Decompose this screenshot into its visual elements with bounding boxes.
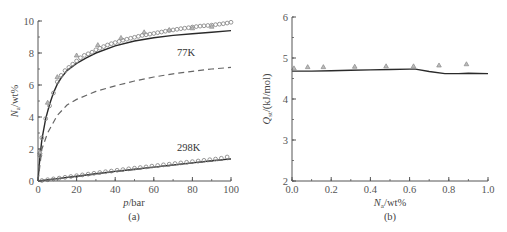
data-point-circle [194, 25, 198, 29]
figure: 0204060801000246810 77K 298K p/bar (a) N… [0, 0, 507, 232]
x-tick-label: 60 [149, 184, 160, 195]
y-tick-label: 6 [283, 12, 288, 23]
y-tick-label: 5 [283, 53, 288, 64]
y-tick-label: 3 [283, 135, 288, 146]
data-point-circle [106, 43, 110, 47]
annotation-77k: 77K [177, 47, 196, 58]
x-tick-label: 0.8 [442, 184, 455, 195]
caption-b: (b) [384, 211, 397, 223]
data-point-circle [109, 42, 113, 46]
data-point-circle [152, 32, 156, 36]
data-point-triangle [352, 64, 357, 68]
data-point-circle [225, 21, 229, 25]
data-point-triangle [464, 62, 469, 66]
data-point-circle [125, 37, 129, 41]
data-point-circle [79, 56, 83, 60]
data-point-circle [94, 48, 98, 52]
data-point-circle [82, 54, 86, 58]
y-tick-label: 2 [283, 176, 288, 187]
data-point-triangle [142, 30, 147, 34]
x-tick-label: 40 [110, 184, 121, 195]
data-point-circle [148, 32, 152, 36]
data-point-circle [221, 22, 225, 26]
x-tick-label: 0.6 [403, 184, 416, 195]
data-point-circle [225, 155, 229, 159]
caption-a: (a) [128, 211, 140, 223]
data-point-triangle [321, 65, 326, 69]
x-tick-label: 100 [223, 184, 239, 195]
y-tick-label: 4 [283, 94, 289, 105]
data-point-circle [129, 36, 133, 40]
chart-panel-b: 0.00.20.40.60.81.023456 Na/wt% (b) Qst/(… [261, 12, 495, 224]
axes-b: 0.00.20.40.60.81.023456 [283, 12, 495, 196]
data-point-triangle [45, 100, 50, 104]
y-tick-label: 4 [29, 112, 35, 123]
data-point-circle [183, 26, 187, 30]
data-point-triangle [384, 64, 389, 68]
x-tick-label: 0.4 [364, 184, 378, 195]
y-tick-label: 6 [29, 80, 34, 91]
axis-frame-a [38, 21, 231, 181]
x-tick-label: 1.0 [481, 184, 494, 195]
data-point-circle [160, 30, 164, 34]
axis-frame-b [292, 17, 488, 181]
data-point-circle [175, 27, 179, 31]
data-point-circle [229, 20, 233, 24]
data-point-circle [113, 41, 117, 45]
chart-panel-a: 0204060801000246810 77K 298K p/bar (a) N… [9, 16, 239, 224]
y-axis-label-b: Qst/(kJ/mol) [261, 73, 274, 124]
data-point-circle [102, 45, 106, 49]
data-point-triangle [437, 63, 442, 67]
data-point-circle [218, 22, 222, 26]
data-point-circle [202, 24, 206, 28]
data-point-circle [117, 40, 121, 44]
plot-area-b [292, 62, 488, 74]
x-tick-label: 80 [187, 184, 198, 195]
data-point-triangle [74, 53, 79, 57]
y-tick-label: 2 [29, 144, 34, 155]
data-point-circle [90, 50, 94, 54]
data-point-circle [86, 52, 90, 56]
series-line-b-0 [292, 69, 488, 74]
annotation-298k: 298K [177, 142, 201, 153]
data-point-circle [133, 35, 137, 39]
plot-area-a [38, 20, 233, 182]
y-tick-label: 10 [24, 16, 35, 27]
y-tick-label: 0 [29, 176, 34, 187]
data-point-circle [179, 27, 183, 31]
x-tick-label: 0.2 [325, 184, 338, 195]
data-point-circle [187, 26, 191, 30]
x-axis-label-b: Na/wt% [373, 197, 407, 210]
data-point-circle [75, 59, 79, 63]
x-axis-label-a: p/bar [122, 197, 145, 208]
y-axis-label-a: Na/wt% [9, 85, 22, 119]
data-point-triangle [411, 64, 416, 68]
series-line-a-3 [38, 67, 231, 181]
data-point-circle [156, 31, 160, 35]
y-tick-label: 8 [29, 48, 34, 59]
data-point-circle [206, 24, 210, 28]
x-tick-label: 20 [71, 184, 82, 195]
data-point-circle [198, 24, 202, 28]
data-point-circle [214, 23, 218, 27]
x-tick-label: 0 [35, 184, 40, 195]
data-point-circle [136, 34, 140, 38]
data-point-triangle [96, 43, 101, 47]
data-point-triangle [119, 35, 124, 39]
data-point-triangle [305, 65, 310, 69]
